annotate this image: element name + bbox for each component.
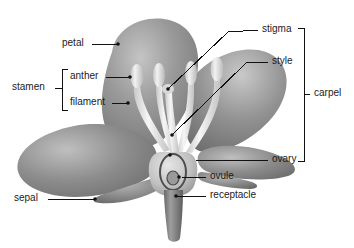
- dot-ovary: [168, 153, 172, 157]
- label-carpel: carpel: [314, 88, 341, 98]
- label-stamen: stamen: [12, 82, 45, 92]
- anther-4: [211, 57, 224, 81]
- ovary-group: [149, 152, 198, 197]
- anther-1: [131, 64, 144, 88]
- carpel-bracket: [298, 28, 304, 161]
- label-style: style: [272, 56, 293, 66]
- label-anther: anther: [70, 71, 98, 81]
- dot-stigma: [166, 87, 170, 91]
- dot-petal: [116, 42, 120, 46]
- dot-ovule: [177, 175, 181, 179]
- label-sepal: sepal: [14, 193, 38, 203]
- label-petal: petal: [62, 38, 84, 48]
- anther-2: [153, 63, 165, 87]
- dot-style: [170, 133, 174, 137]
- ovule: [167, 171, 179, 185]
- flower-diagram: petal stamen anther filament sepal stigm…: [0, 0, 354, 248]
- label-ovary: ovary: [272, 154, 296, 164]
- label-filament: filament: [70, 97, 105, 107]
- anther-3: [185, 61, 197, 85]
- flower-illustration: [0, 0, 354, 248]
- dot-receptacle: [174, 194, 178, 198]
- dot-filament: [126, 101, 130, 105]
- dot-sepal: [93, 197, 97, 201]
- label-stigma: stigma: [262, 24, 291, 34]
- stamen-bracket: [62, 69, 68, 110]
- dot-anther: [128, 75, 132, 79]
- label-ovule: ovule: [210, 171, 234, 181]
- label-receptacle: receptacle: [210, 190, 256, 200]
- receptacle: [164, 190, 183, 242]
